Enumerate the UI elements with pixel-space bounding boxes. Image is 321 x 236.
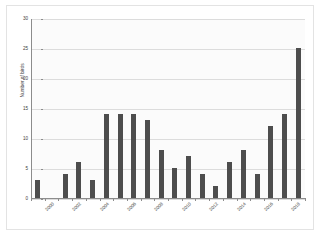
- bar: [63, 174, 68, 198]
- x-axis-tick-mark: [168, 198, 169, 201]
- bar: [104, 114, 109, 198]
- x-axis-tick-mark: [278, 198, 279, 201]
- y-axis-tick-label: 0: [25, 197, 28, 202]
- x-axis-tick-mark: [195, 198, 196, 201]
- y-axis-title: Number of birds: [20, 51, 25, 111]
- x-axis-tick-label: 2008: [154, 202, 164, 212]
- x-axis-tick-label: 2016: [264, 202, 274, 212]
- bar: [186, 156, 191, 198]
- bar: [282, 114, 287, 198]
- x-axis-tick-label: 2004: [100, 202, 110, 212]
- x-axis-tick-mark: [291, 198, 292, 201]
- bar: [172, 168, 177, 198]
- bar-series: [31, 19, 305, 198]
- x-axis-tick-mark: [86, 198, 87, 201]
- x-axis-tick-mark: [154, 198, 155, 201]
- bar: [213, 186, 218, 198]
- bar: [131, 114, 136, 198]
- x-axis-tick-label: 2006: [127, 202, 137, 212]
- x-axis-tick-label: 2002: [72, 202, 82, 212]
- x-axis-tick-label: 2010: [182, 202, 192, 212]
- x-axis-tick-mark: [31, 198, 32, 201]
- y-axis-tick-label: 30: [23, 17, 28, 22]
- bar: [296, 48, 301, 198]
- chart-figure: 051015202530 Number of birds 20002002200…: [0, 0, 321, 236]
- x-axis-tick-mark: [237, 198, 238, 201]
- bar: [90, 180, 95, 198]
- bar: [159, 150, 164, 198]
- x-axis-tick-mark: [223, 198, 224, 201]
- x-axis-tick-mark: [127, 198, 128, 201]
- bar: [227, 162, 232, 198]
- x-axis-tick-mark: [100, 198, 101, 201]
- y-axis-tick-label: 10: [23, 137, 28, 142]
- bar: [255, 174, 260, 198]
- x-axis-tick-label: 2018: [291, 202, 301, 212]
- x-axis-tick-mark: [264, 198, 265, 201]
- x-axis-tick-mark: [113, 198, 114, 201]
- y-axis-tick-labels: 051015202530: [12, 0, 28, 236]
- y-axis-tick-label: 5: [25, 167, 28, 172]
- x-axis-tick-mark: [72, 198, 73, 201]
- x-axis-tick-labels: 2000200220042006200820102012201420162018: [31, 202, 311, 232]
- x-axis-tick-mark: [45, 198, 46, 201]
- bar: [35, 180, 40, 198]
- bar: [118, 114, 123, 198]
- x-axis-tick-mark: [141, 198, 142, 201]
- x-axis-tick-mark: [305, 198, 306, 201]
- x-axis-tick-mark: [58, 198, 59, 201]
- x-axis-tick-mark: [182, 198, 183, 201]
- x-axis-tick-label: 2000: [45, 202, 55, 212]
- bar: [268, 126, 273, 198]
- bar: [145, 120, 150, 198]
- bar: [241, 150, 246, 198]
- x-axis-tick-mark: [209, 198, 210, 201]
- x-axis-tick-label: 2014: [237, 202, 247, 212]
- x-axis-tick-label: 2012: [209, 202, 219, 212]
- bar: [76, 162, 81, 198]
- x-axis-tick-mark: [250, 198, 251, 201]
- bar: [200, 174, 205, 198]
